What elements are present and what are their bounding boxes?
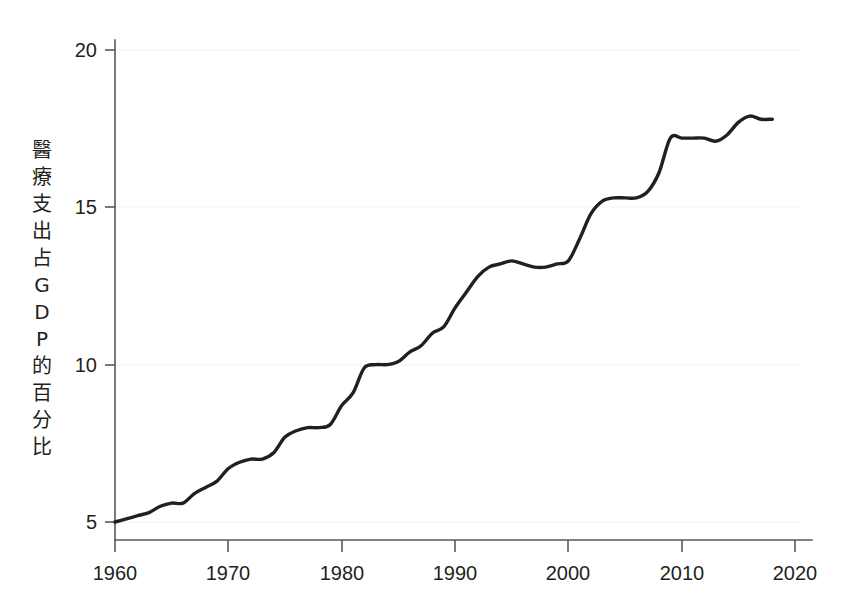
y-axis-title-char-2: 支 [32,192,52,216]
x-tick-label-1960: 1960 [93,562,138,584]
y-axis-title-char-9: 百 [32,381,52,405]
line-chart: 20 15 10 5 1960 1970 1980 1990 2000 2010… [0,0,845,607]
y-tick-label-15: 15 [75,196,97,218]
y-axis-title-char-7: P [36,327,48,351]
y-tick-label-5: 5 [86,511,97,533]
y-axis-title-char-11: 比 [32,435,52,459]
chart-container: 20 15 10 5 1960 1970 1980 1990 2000 2010… [0,0,845,607]
y-axis-title-char-3: 出 [32,219,52,243]
chart-background [0,0,845,607]
y-axis-title-char-6: D [34,300,49,324]
y-axis-title-char-4: 占 [32,246,52,270]
y-axis-title-char-1: 療 [32,165,52,189]
y-axis-title-char-8: 的 [32,354,52,378]
x-tick-label-1970: 1970 [206,562,251,584]
x-tick-label-2020: 2020 [773,562,818,584]
x-tick-label-1990: 1990 [433,562,478,584]
x-tick-label-2000: 2000 [546,562,591,584]
y-tick-label-20: 20 [75,39,97,61]
y-axis-title-char-5: G [34,273,50,297]
y-tick-label-10: 10 [75,354,97,376]
x-tick-label-1980: 1980 [320,562,365,584]
y-axis-title-char-10: 分 [32,408,52,432]
y-axis-title-char-0: 醫 [32,138,52,162]
x-tick-label-2010: 2010 [660,562,705,584]
